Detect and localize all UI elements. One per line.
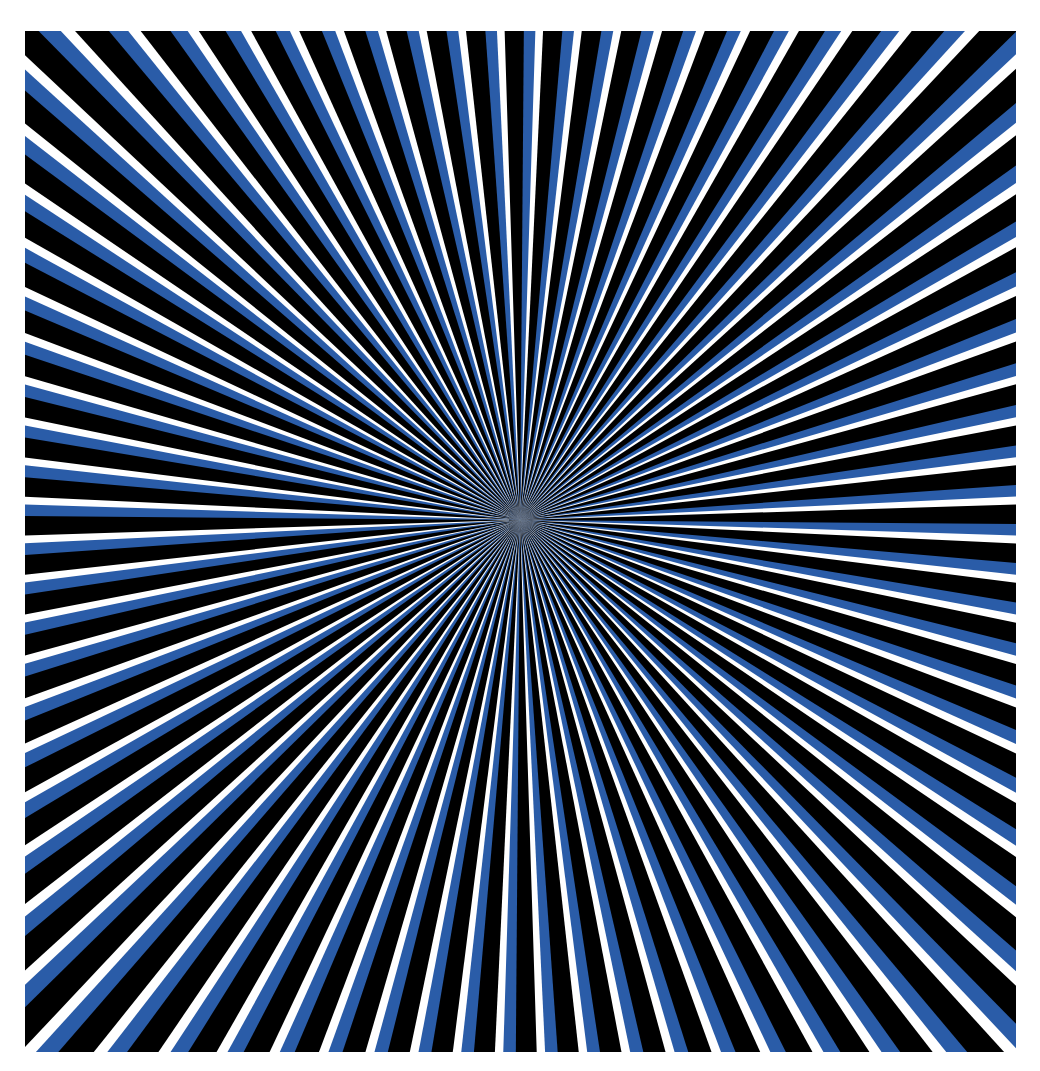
radial-moire-pattern [25, 31, 1016, 1052]
op-art-illusion [25, 31, 1016, 1052]
